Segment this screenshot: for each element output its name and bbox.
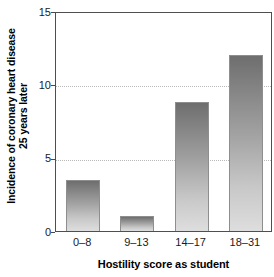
y-axis-tick-label: 10	[27, 80, 51, 91]
bar	[120, 216, 154, 231]
bar	[66, 180, 100, 231]
x-axis-tick-labels: 0–89–1314–1718–31	[55, 236, 272, 250]
plot-area	[55, 12, 272, 232]
x-axis-tick-label: 18–31	[218, 236, 272, 248]
y-axis-tick-label: 0	[27, 227, 51, 238]
y-axis-tick-label: 5	[27, 153, 51, 164]
x-axis-tick-label: 9–13	[109, 236, 163, 248]
y-axis-tick-mark	[51, 12, 55, 13]
y-axis-tick-mark	[51, 85, 55, 86]
y-axis-tick-mark	[51, 159, 55, 160]
bar	[229, 55, 263, 231]
x-axis-tick-label: 0–8	[55, 236, 109, 248]
x-axis-tick-label: 14–17	[164, 236, 218, 248]
x-axis-title: Hostility score as student	[55, 258, 272, 270]
bar	[175, 102, 209, 231]
bar-chart-figure: Incidence of coronary heart disease 25 y…	[0, 0, 274, 277]
y-axis-tick-mark	[51, 232, 55, 233]
y-axis-tick-labels: 051015	[27, 0, 51, 277]
y-axis-tick-label: 15	[27, 7, 51, 18]
